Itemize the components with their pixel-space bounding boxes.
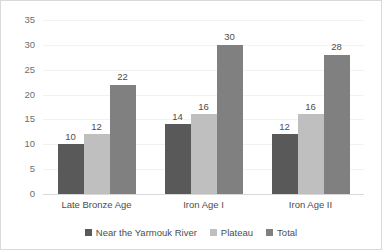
bar bbox=[272, 134, 298, 194]
x-category-label: Iron Age I bbox=[183, 200, 224, 210]
y-tick-label: 0 bbox=[30, 189, 35, 199]
bar-group: 101222 bbox=[43, 20, 150, 194]
legend-label: Near the Yarmouk River bbox=[96, 228, 197, 238]
bar-value-label: 12 bbox=[91, 122, 102, 132]
legend-label: Plateau bbox=[221, 228, 253, 238]
bar-value-label: 16 bbox=[198, 102, 209, 112]
bar-value-label: 30 bbox=[224, 32, 235, 42]
y-tick-label: 30 bbox=[24, 40, 35, 50]
legend-item[interactable]: Total bbox=[266, 228, 297, 238]
legend-label: Total bbox=[277, 228, 297, 238]
bar-value-label: 22 bbox=[117, 72, 128, 82]
bar-value-label: 12 bbox=[279, 122, 290, 132]
bar-value-label: 28 bbox=[331, 42, 342, 52]
y-axis: 05101520253035 bbox=[1, 1, 43, 250]
y-tick-label: 25 bbox=[24, 65, 35, 75]
plot-area: 101222141630121628 bbox=[43, 20, 364, 194]
x-category-label: Iron Age II bbox=[289, 200, 332, 210]
bar-value-label: 16 bbox=[305, 102, 316, 112]
y-tick-label: 35 bbox=[24, 15, 35, 25]
legend-item[interactable]: Near the Yarmouk River bbox=[85, 228, 197, 238]
bar bbox=[191, 114, 217, 194]
legend-item[interactable]: Plateau bbox=[210, 228, 253, 238]
bar bbox=[298, 114, 324, 194]
axis-baseline bbox=[43, 194, 364, 195]
bar-chart: 05101520253035 101222141630121628 Late B… bbox=[0, 0, 382, 250]
y-tick-label: 5 bbox=[30, 164, 35, 174]
bar-value-label: 14 bbox=[172, 112, 183, 122]
bar bbox=[110, 85, 136, 194]
x-category-label: Late Bronze Age bbox=[61, 200, 131, 210]
bar bbox=[84, 134, 110, 194]
bar-group: 121628 bbox=[257, 20, 364, 194]
bar bbox=[217, 45, 243, 194]
bar bbox=[165, 124, 191, 194]
y-tick-label: 20 bbox=[24, 90, 35, 100]
legend-swatch-icon bbox=[85, 229, 92, 236]
bar bbox=[58, 144, 84, 194]
y-tick-label: 10 bbox=[24, 140, 35, 150]
bar-group: 141630 bbox=[150, 20, 257, 194]
y-tick-label: 15 bbox=[24, 115, 35, 125]
legend-swatch-icon bbox=[210, 229, 217, 236]
bar bbox=[324, 55, 350, 194]
chart-legend: Near the Yarmouk RiverPlateauTotal bbox=[1, 228, 381, 238]
bar-value-label: 10 bbox=[65, 132, 76, 142]
legend-swatch-icon bbox=[266, 229, 273, 236]
